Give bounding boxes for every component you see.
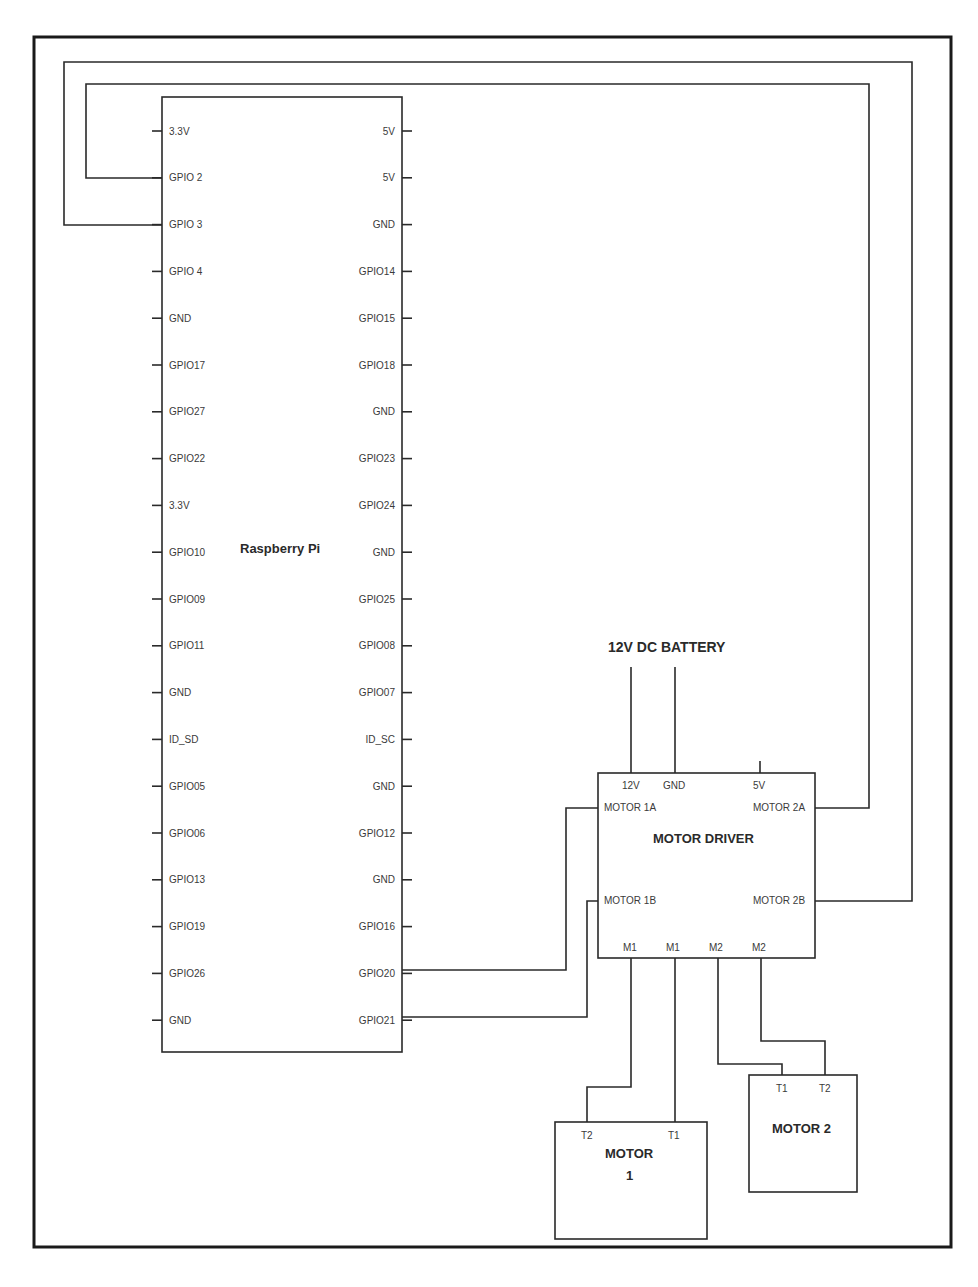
rpi-left-pin-label: 3.3V xyxy=(169,500,190,511)
rpi-right-pin-label: GND xyxy=(373,219,395,230)
rpi-left-pin-label: GPIO27 xyxy=(169,406,206,417)
rpi-right-pin-label: GPIO20 xyxy=(359,968,396,979)
rpi-left-pin-label: GPIO06 xyxy=(169,828,206,839)
motor-1-title-line2: 1 xyxy=(626,1168,633,1183)
motor-1-block: T2 T1 MOTOR 1 xyxy=(555,1122,707,1239)
rpi-right-pin-label: GPIO25 xyxy=(359,594,396,605)
raspberry-pi-title: Raspberry Pi xyxy=(240,541,320,556)
rpi-left-pin-label: GPIO26 xyxy=(169,968,206,979)
wire-m2-to-motor2-t1 xyxy=(718,958,782,1075)
driver-pin-m1-a: M1 xyxy=(623,942,637,953)
motor-driver-body xyxy=(598,773,815,958)
motor-1-pin-t1: T1 xyxy=(668,1130,680,1141)
driver-pin-gnd: GND xyxy=(663,780,685,791)
rpi-left-pin-label: GPIO19 xyxy=(169,921,206,932)
wiring-diagram: Raspberry Pi 3.3VGPIO 2GPIO 3GPIO 4GNDGP… xyxy=(0,0,978,1287)
driver-pin-5v: 5V xyxy=(753,780,766,791)
rpi-left-pin-label: GPIO 4 xyxy=(169,266,203,277)
rpi-left-pin-label: GPIO17 xyxy=(169,360,206,371)
rpi-left-pin-label: GPIO 3 xyxy=(169,219,203,230)
driver-pin-motor-2a: MOTOR 2A xyxy=(753,802,805,813)
wire-gpio21-to-motor1b xyxy=(402,901,598,1017)
rpi-left-pin-label: GND xyxy=(169,1015,191,1026)
rpi-left-pin-label: GPIO11 xyxy=(169,640,205,651)
wire-m2-to-motor2-t2 xyxy=(761,958,825,1075)
driver-pin-motor-2b: MOTOR 2B xyxy=(753,895,805,906)
rpi-left-pin-label: GPIO09 xyxy=(169,594,206,605)
motor-driver-block: MOTOR DRIVER 12V GND 5V MOTOR 1A MOTOR 1… xyxy=(598,773,815,958)
rpi-right-pin-label: 5V xyxy=(383,126,396,137)
rpi-right-pin-label: GPIO14 xyxy=(359,266,396,277)
rpi-right-pin-label: GPIO08 xyxy=(359,640,396,651)
rpi-right-pin-label: GND xyxy=(373,781,395,792)
rpi-right-pin-label: ID_SC xyxy=(366,734,395,745)
rpi-left-pin-label: 3.3V xyxy=(169,126,190,137)
motor-1-title-line1: MOTOR xyxy=(605,1146,654,1161)
rpi-left-pin-label: GND xyxy=(169,313,191,324)
rpi-left-pin-label: GPIO10 xyxy=(169,547,206,558)
motor-1-pin-t2: T2 xyxy=(581,1130,593,1141)
rpi-right-pin-label: 5V xyxy=(383,172,396,183)
motor-driver-title: MOTOR DRIVER xyxy=(653,831,754,846)
wire-m1-to-motor1-t2 xyxy=(587,958,631,1122)
driver-pin-12v: 12V xyxy=(622,780,640,791)
battery-label: 12V DC BATTERY xyxy=(608,639,726,655)
rpi-right-pin-label: GPIO16 xyxy=(359,921,396,932)
rpi-right-pin-label: GPIO18 xyxy=(359,360,396,371)
rpi-right-pin-label: GPIO21 xyxy=(359,1015,396,1026)
rpi-right-pin-label: GPIO07 xyxy=(359,687,396,698)
rpi-right-pin-label: GND xyxy=(373,406,395,417)
rpi-right-pin-label: GND xyxy=(373,874,395,885)
rpi-right-pin-label: GPIO12 xyxy=(359,828,396,839)
driver-pin-motor-1b: MOTOR 1B xyxy=(604,895,656,906)
rpi-left-pin-label: GPIO13 xyxy=(169,874,206,885)
raspberry-pi-body xyxy=(162,97,402,1052)
motor-2-title: MOTOR 2 xyxy=(772,1121,831,1136)
motor-2-block: T1 T2 MOTOR 2 xyxy=(749,1075,857,1192)
driver-pin-m2-b: M2 xyxy=(752,942,766,953)
rpi-left-pin-label: GND xyxy=(169,687,191,698)
driver-pin-m2-a: M2 xyxy=(709,942,723,953)
rpi-left-pin-label: GPIO22 xyxy=(169,453,206,464)
motor-2-pin-t2: T2 xyxy=(819,1083,831,1094)
rpi-right-pin-label: GPIO24 xyxy=(359,500,396,511)
driver-pin-m1-b: M1 xyxy=(666,942,680,953)
wire-gpio20-to-motor1a xyxy=(402,808,598,970)
raspberry-pi-block: Raspberry Pi 3.3VGPIO 2GPIO 3GPIO 4GNDGP… xyxy=(152,97,412,1052)
rpi-right-pin-label: GPIO15 xyxy=(359,313,396,324)
rpi-left-pin-label: ID_SD xyxy=(169,734,198,745)
rpi-right-pin-label: GPIO23 xyxy=(359,453,396,464)
rpi-right-pin-label: GND xyxy=(373,547,395,558)
motor-2-pin-t1: T1 xyxy=(776,1083,788,1094)
rpi-left-pin-label: GPIO 2 xyxy=(169,172,203,183)
driver-pin-motor-1a: MOTOR 1A xyxy=(604,802,656,813)
rpi-left-pin-label: GPIO05 xyxy=(169,781,206,792)
